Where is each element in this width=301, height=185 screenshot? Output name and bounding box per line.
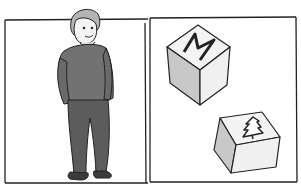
face [74,18,97,44]
trousers [68,100,109,174]
boy-figure [58,9,114,180]
cube-m [167,25,230,105]
illustration: Boy standing in left panel; two cubes in… [0,0,301,185]
cube-tree [214,112,280,173]
left-shoe [68,172,88,180]
panel-divider [145,23,146,183]
right-shoe [93,171,111,178]
